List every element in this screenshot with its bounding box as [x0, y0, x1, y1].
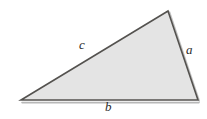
triangle-figure: c a b [0, 0, 207, 119]
triangle-graphic [0, 0, 207, 119]
side-label-b: b [105, 100, 112, 113]
triangle-body [21, 11, 198, 100]
side-label-a: a [186, 43, 193, 56]
side-label-c: c [79, 38, 85, 51]
